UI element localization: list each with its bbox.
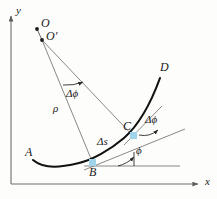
point-label-C: C (123, 120, 131, 132)
y-axis-label: y (16, 5, 21, 16)
delta-phi-arc-at-center (63, 82, 83, 85)
point-markers (35, 27, 137, 166)
point-label-O: O (41, 17, 50, 29)
delta-phi-arc-at-C (139, 130, 158, 135)
annotation-rho: ρ (53, 103, 58, 114)
phi-arc-at-B (118, 157, 134, 166)
axes-group (11, 16, 198, 184)
annotation-delta-s: Δs (97, 136, 108, 147)
diagram-canvas (0, 0, 217, 199)
annotation-delta-phi-center: Δϕ (66, 88, 78, 99)
annotation-delta-phi-tangent: Δϕ (145, 114, 157, 125)
point-marker-C (130, 132, 137, 139)
point-label-O-prime: O′ (46, 30, 57, 42)
point-label-B: B (89, 166, 96, 178)
point-marker-O (35, 27, 39, 31)
point-label-A: A (25, 146, 32, 158)
x-axis-label: x (205, 176, 210, 187)
radius-line-to-B (42, 40, 94, 166)
radius-line-to-C (42, 40, 135, 138)
point-marker-O-prime (40, 38, 44, 42)
point-label-D: D (160, 61, 169, 73)
annotation-phi: ϕ (136, 145, 142, 156)
curvature-diagram: y x O O′ A B C D Δϕ ρ Δs Δϕ ϕ (0, 0, 217, 199)
